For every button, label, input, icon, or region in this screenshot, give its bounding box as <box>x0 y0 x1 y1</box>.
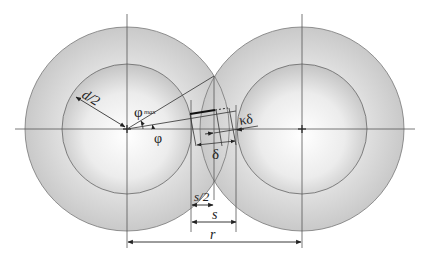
label-phi-max-sub: max <box>144 108 157 116</box>
label-delta: δ <box>212 146 219 162</box>
sphere-contact-diagram: d/2 φ max φ δ κδ s/2 s r <box>0 0 426 262</box>
label-phi-max: φ <box>134 104 143 120</box>
label-s-half: s/2 <box>194 189 210 204</box>
label-phi: φ <box>154 131 162 146</box>
label-r: r <box>210 227 216 242</box>
phi-arc <box>153 125 154 129</box>
label-s: s <box>212 207 218 222</box>
label-kappa-delta: κδ <box>238 111 254 128</box>
diagram-svg: d/2 φ max φ δ κδ s/2 s r <box>0 0 426 262</box>
